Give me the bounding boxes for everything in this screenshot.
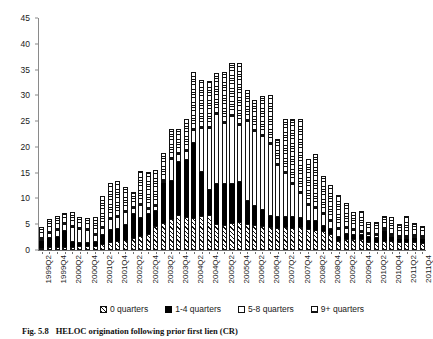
bar-segment-9-quarters [47,219,52,233]
x-axis-tick-2001Q4: 2001Q4 [121,255,129,283]
bar-segment-9-quarters [290,119,295,184]
bar-2011Q2 [404,216,409,250]
bar-segment-9-quarters [214,73,219,114]
x-axis-tick-2009Q2: 2009Q2 [349,255,357,283]
x-axis-tick-mark [285,252,286,254]
bar-segment-5-8-quarters [336,229,341,237]
bar-2000Q3 [77,217,82,250]
bar-2011Q4 [420,226,425,250]
bar-segment-1-4-quarters [290,217,295,228]
bar-segment-1-4-quarters [55,237,60,247]
bar-segment-5-8-quarters [283,173,288,217]
bar-segment-9-quarters [420,226,425,237]
bar-segment-5-8-quarters [184,151,189,160]
horizontal-stripes-swatch [311,306,318,313]
bar-segment-5-8-quarters [108,219,113,230]
y-axis-tick-35: 35 [21,65,30,74]
bar-segment-9-quarters [138,171,143,205]
bar-segment-5-8-quarters [55,230,60,237]
bar-segment-0-quarters [161,223,166,250]
bar-segment-1-4-quarters [214,184,219,225]
bar-segment-9-quarters [245,90,250,121]
bar-segment-0-quarters [351,239,356,250]
bar-segment-9-quarters [389,217,394,235]
bar-segment-5-8-quarters [306,205,311,221]
legend-item-9-quarters[interactable]: 9+ quarters [311,305,364,314]
x-axis-tick-labels: 1999Q21999Q42000Q22000Q42001Q22001Q42002… [38,252,426,300]
bar-segment-9-quarters [100,196,105,228]
bar-segment-0-quarters [336,241,341,250]
bar-segment-9-quarters [108,183,113,219]
bar-segment-9-quarters [77,217,82,229]
bar-segment-0-quarters [404,242,409,250]
y-axis-tick-10: 10 [21,194,30,203]
x-axis-tick-mark [164,252,165,254]
bar-segment-1-4-quarters [222,184,227,225]
bar-2000Q4 [85,218,90,250]
bar-segment-1-4-quarters [199,172,204,216]
bar-2004Q2 [191,72,196,250]
bar-2007Q4 [298,119,303,250]
x-axis-tick-mark [186,252,187,254]
bar-segment-1-4-quarters [146,214,151,233]
bar-segment-9-quarters [374,222,379,235]
bar-segment-0-quarters [382,241,387,250]
x-axis-tick-mark [42,252,43,254]
x-axis-tick-mark [323,252,324,254]
bar-segment-9-quarters [412,223,417,236]
x-axis-tick-2008Q2: 2008Q2 [319,255,327,283]
x-axis-tick-mark [384,252,385,254]
legend-item-1-4-quarters[interactable]: 1-4 quarters [165,305,221,314]
legend-item-5-8-quarters[interactable]: 5-8 quarters [238,305,294,314]
bar-segment-5-8-quarters [252,131,257,206]
bar-segment-0-quarters [191,218,196,250]
y-axis-tick-0: 0 [25,246,30,255]
x-axis-tick-mark [118,252,119,254]
bar-segment-0-quarters [184,217,189,250]
bar-segment-0-quarters [321,231,326,250]
bar-segment-1-4-quarters [108,230,113,242]
x-axis-tick-mark [316,252,317,254]
legend-item-0-quarters[interactable]: 0 quarters [100,305,148,314]
bar-segment-9-quarters [252,100,257,131]
bar-2007Q1 [275,139,280,250]
bar-2010Q1 [366,222,371,250]
x-axis-tick-2007Q2: 2007Q2 [288,255,296,283]
bar-2009Q4 [359,211,364,250]
bar-2005Q3 [229,63,234,250]
x-axis-tick-mark [80,252,81,254]
bar-segment-1-4-quarters [260,210,265,226]
bar-2002Q4 [146,172,151,250]
x-axis-tick-mark [194,252,195,254]
bar-2002Q3 [138,171,143,250]
bar-segment-9-quarters [176,129,181,154]
bar-2003Q3 [169,129,174,250]
bar-segment-1-4-quarters [169,181,174,218]
bar-segment-9-quarters [115,181,120,217]
bar-segment-0-quarters [275,228,280,250]
bar-segment-5-8-quarters [93,235,98,242]
bar-1999Q4 [55,216,60,250]
bar-2010Q2 [374,222,379,250]
bar-segment-5-8-quarters [260,136,265,210]
bar-2004Q3 [199,80,204,250]
x-axis-tick-mark [293,252,294,254]
bar-2004Q1 [184,119,189,250]
bar-segment-5-8-quarters [229,116,234,184]
bar-segment-5-8-quarters [70,227,75,242]
bar-segment-5-8-quarters [115,217,120,229]
bar-segment-1-4-quarters [176,162,181,215]
x-axis-tick-2004Q4: 2004Q4 [212,255,220,283]
bar-2006Q3 [260,96,265,250]
bar-2005Q4 [237,63,242,250]
x-axis-tick-mark [224,252,225,254]
bar-segment-0-quarters [93,246,98,250]
x-axis-tick-2003Q4: 2003Q4 [182,255,190,283]
x-axis-line [38,250,426,251]
x-axis-tick-mark [110,252,111,254]
x-axis-tick-mark [399,252,400,254]
bar-segment-9-quarters [351,212,356,230]
x-axis-tick-mark [339,252,340,254]
x-axis-tick-2000Q4: 2000Q4 [91,255,99,283]
